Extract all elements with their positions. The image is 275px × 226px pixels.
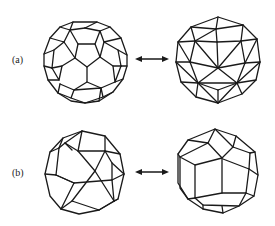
row-a-double-arrow [135,56,169,62]
snub-cube [45,131,124,214]
dual-polyhedra-diagram [0,0,275,226]
pentakis-dodecahedron [176,17,260,103]
row-b-double-arrow [135,169,169,175]
pentagonal-icositetrahedron [178,129,258,213]
truncated-icosahedron [44,22,127,103]
